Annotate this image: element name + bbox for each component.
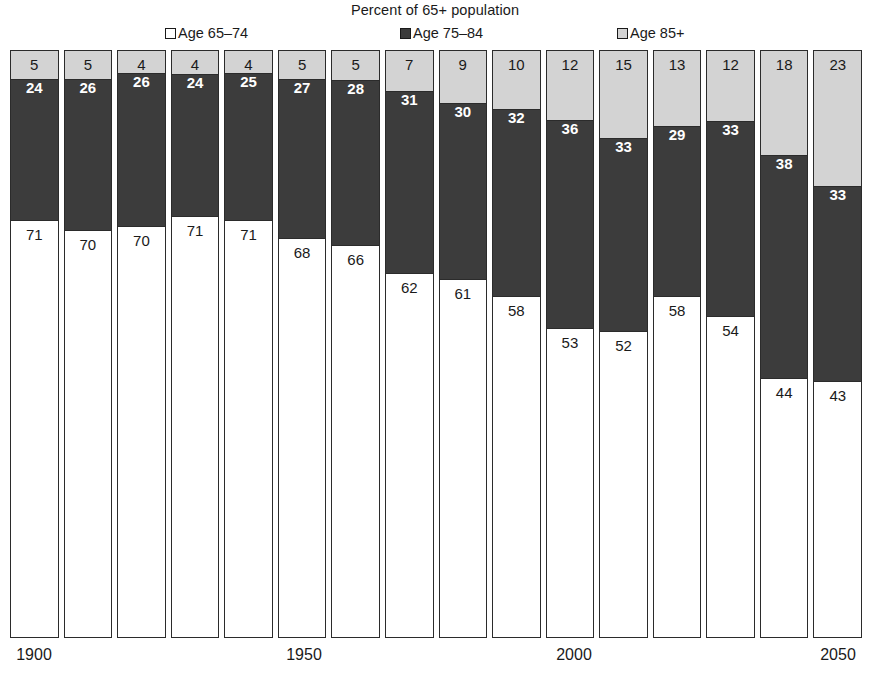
legend-item-age-65-74: Age 65–74 bbox=[165, 24, 248, 42]
segment-age-75-84-2050: 33 bbox=[814, 187, 861, 382]
bar-1950[interactable]: 52768 bbox=[278, 50, 327, 638]
bar-2040[interactable]: 183844 bbox=[760, 50, 809, 638]
segment-age-75-84-1980: 30 bbox=[440, 104, 487, 280]
bar-2000[interactable]: 123653 bbox=[546, 50, 595, 638]
segment-value-label: 68 bbox=[294, 245, 311, 260]
segment-age-65-74-2020: 58 bbox=[654, 297, 701, 637]
bar-1940[interactable]: 42571 bbox=[224, 50, 273, 638]
segment-value-label: 28 bbox=[347, 81, 364, 96]
segment-value-label: 38 bbox=[776, 156, 793, 171]
segment-age-85-plus-2040: 18 bbox=[761, 51, 808, 156]
segment-value-label: 13 bbox=[669, 57, 686, 72]
segment-value-label: 36 bbox=[562, 121, 579, 136]
segment-age-85-plus-2010: 15 bbox=[600, 51, 647, 139]
segment-value-label: 52 bbox=[615, 338, 632, 353]
segment-value-label: 26 bbox=[133, 74, 150, 89]
segment-age-75-84-2010: 33 bbox=[600, 139, 647, 332]
plot-area: 5247152670426704247142571527685286673162… bbox=[10, 50, 862, 638]
segment-age-85-plus-1980: 9 bbox=[440, 51, 487, 104]
segment-age-75-84-1900: 24 bbox=[11, 80, 58, 221]
segment-value-label: 31 bbox=[401, 92, 418, 107]
segment-value-label: 5 bbox=[351, 57, 359, 72]
legend-swatch-age-85-plus bbox=[617, 28, 628, 39]
segment-value-label: 71 bbox=[240, 227, 257, 242]
segment-age-85-plus-1910: 5 bbox=[65, 51, 112, 80]
x-tick-1950: 1950 bbox=[286, 646, 322, 664]
segment-value-label: 33 bbox=[722, 122, 739, 137]
segment-age-75-84-1960: 28 bbox=[332, 81, 379, 247]
segment-age-75-84-1910: 26 bbox=[65, 80, 112, 231]
segment-age-85-plus-2050: 23 bbox=[814, 51, 861, 187]
segment-age-75-84-2000: 36 bbox=[547, 121, 594, 330]
segment-age-65-74-1960: 66 bbox=[332, 246, 379, 637]
segment-value-label: 5 bbox=[30, 57, 38, 72]
segment-value-label: 4 bbox=[244, 57, 252, 72]
segment-value-label: 12 bbox=[722, 57, 739, 72]
segment-age-85-plus-1950: 5 bbox=[279, 51, 326, 80]
segment-age-85-plus-1960: 5 bbox=[332, 51, 379, 81]
segment-age-85-plus-1940: 4 bbox=[225, 51, 272, 74]
segment-value-label: 66 bbox=[347, 252, 364, 267]
segment-value-label: 62 bbox=[401, 280, 418, 295]
bar-1960[interactable]: 52866 bbox=[331, 50, 380, 638]
bar-2050[interactable]: 233343 bbox=[813, 50, 862, 638]
segment-value-label: 71 bbox=[26, 227, 43, 242]
segment-age-85-plus-2020: 13 bbox=[654, 51, 701, 127]
segment-age-75-84-1920: 26 bbox=[118, 74, 165, 226]
chart-figure: Percent of 65+ population Age 65–74 Age … bbox=[0, 0, 870, 683]
segment-value-label: 44 bbox=[776, 385, 793, 400]
x-tick-2050: 2050 bbox=[820, 646, 856, 664]
segment-value-label: 53 bbox=[562, 335, 579, 350]
segment-value-label: 25 bbox=[240, 74, 257, 89]
segment-age-65-74-2030: 54 bbox=[707, 317, 754, 637]
segment-age-65-74-2010: 52 bbox=[600, 332, 647, 637]
bar-1970[interactable]: 73162 bbox=[385, 50, 434, 638]
bar-2010[interactable]: 153352 bbox=[599, 50, 648, 638]
legend-swatch-age-75-84 bbox=[400, 28, 411, 39]
legend-label-age-75-84: Age 75–84 bbox=[413, 26, 483, 41]
segment-age-65-74-2050: 43 bbox=[814, 382, 861, 637]
segment-age-65-74-1940: 71 bbox=[225, 221, 272, 637]
segment-age-65-74-1970: 62 bbox=[386, 274, 433, 637]
segment-value-label: 32 bbox=[508, 110, 525, 125]
bar-2020[interactable]: 132958 bbox=[653, 50, 702, 638]
segment-age-75-84-1950: 27 bbox=[279, 80, 326, 238]
segment-age-65-74-1930: 71 bbox=[172, 217, 219, 637]
segment-value-label: 10 bbox=[508, 57, 525, 72]
segment-age-85-plus-2030: 12 bbox=[707, 51, 754, 122]
segment-value-label: 15 bbox=[615, 57, 632, 72]
legend-item-age-85-plus: Age 85+ bbox=[617, 24, 684, 42]
segment-age-75-84-1930: 24 bbox=[172, 75, 219, 217]
segment-value-label: 70 bbox=[80, 237, 97, 252]
bar-1930[interactable]: 42471 bbox=[171, 50, 220, 638]
bar-1910[interactable]: 52670 bbox=[64, 50, 113, 638]
segment-value-label: 9 bbox=[459, 57, 467, 72]
segment-age-65-74-1980: 61 bbox=[440, 280, 487, 637]
bar-1900[interactable]: 52471 bbox=[10, 50, 59, 638]
segment-value-label: 58 bbox=[669, 303, 686, 318]
segment-value-label: 26 bbox=[80, 80, 97, 95]
segment-value-label: 5 bbox=[298, 57, 306, 72]
segment-value-label: 24 bbox=[26, 80, 43, 95]
segment-value-label: 71 bbox=[187, 223, 204, 238]
bar-2030[interactable]: 123354 bbox=[706, 50, 755, 638]
segment-value-label: 24 bbox=[187, 75, 204, 90]
segment-value-label: 61 bbox=[454, 286, 471, 301]
legend-label-age-85-plus: Age 85+ bbox=[630, 26, 684, 41]
bar-1990[interactable]: 103258 bbox=[492, 50, 541, 638]
segment-value-label: 23 bbox=[829, 57, 846, 72]
segment-age-85-plus-2000: 12 bbox=[547, 51, 594, 121]
segment-age-65-74-1910: 70 bbox=[65, 231, 112, 637]
legend-swatch-age-65-74 bbox=[165, 28, 176, 39]
segment-value-label: 33 bbox=[615, 139, 632, 154]
segment-age-75-84-1990: 32 bbox=[493, 110, 540, 298]
bar-1920[interactable]: 42670 bbox=[117, 50, 166, 638]
bar-1980[interactable]: 93061 bbox=[439, 50, 488, 638]
segment-value-label: 18 bbox=[776, 57, 793, 72]
segment-age-65-74-1950: 68 bbox=[279, 239, 326, 637]
segment-value-label: 33 bbox=[829, 187, 846, 202]
segment-age-75-84-2020: 29 bbox=[654, 127, 701, 297]
segment-value-label: 70 bbox=[133, 233, 150, 248]
segment-age-85-plus-1920: 4 bbox=[118, 51, 165, 74]
segment-age-85-plus-1900: 5 bbox=[11, 51, 58, 80]
